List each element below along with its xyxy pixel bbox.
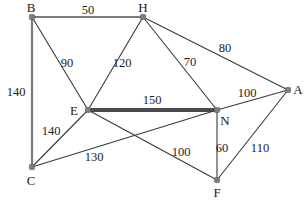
- edge-weight-n-a: 100: [238, 87, 257, 100]
- node-c: [29, 164, 34, 169]
- edge-f-a: [217, 90, 288, 180]
- edge-weight-e-c: 140: [42, 125, 61, 138]
- node-label-b: B: [27, 1, 36, 14]
- edge-weight-b-h: 50: [82, 4, 95, 17]
- node-label-h: H: [138, 1, 147, 14]
- graph-diagram: 5014090120708015014010013010060110BHAENC…: [0, 0, 308, 201]
- node-f: [214, 177, 219, 182]
- edge-weight-b-e: 90: [61, 57, 74, 70]
- edge-weight-e-f: 100: [172, 146, 191, 159]
- node-label-c: C: [27, 174, 36, 187]
- node-label-e: E: [70, 104, 78, 117]
- edge-weight-h-e: 120: [113, 57, 132, 70]
- node-label-n: N: [220, 114, 229, 127]
- edge-e-f: [88, 110, 217, 180]
- edge-weight-h-a: 80: [219, 42, 232, 55]
- node-n: [214, 107, 219, 112]
- edge-weight-h-n: 70: [184, 56, 197, 69]
- node-label-f: F: [213, 186, 220, 199]
- node-b: [29, 14, 34, 19]
- edge-weight-f-a: 110: [251, 142, 269, 155]
- edge-weight-b-c: 140: [7, 86, 26, 99]
- node-h: [140, 14, 145, 19]
- node-e: [85, 107, 90, 112]
- edge-weight-c-n: 130: [85, 151, 104, 164]
- node-a: [285, 87, 290, 92]
- edge-weight-e-n: 150: [143, 94, 162, 107]
- edge-h-a: [143, 17, 288, 90]
- edge-weight-n-f: 60: [216, 142, 229, 155]
- node-label-a: A: [293, 83, 302, 96]
